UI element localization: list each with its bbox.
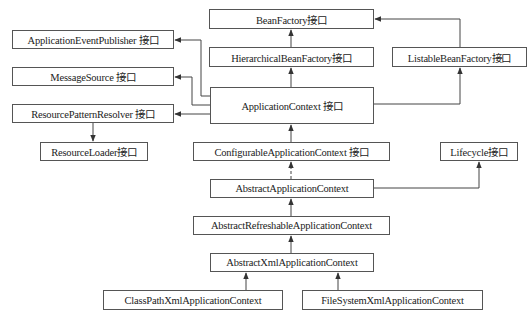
hierarchical-bean-factory-node: HierarchicalBeanFactory接口 bbox=[209, 47, 374, 67]
listable-bean-factory-node: ListableBeanFactory接口 bbox=[392, 47, 527, 67]
class-path-xml-application-context-node: ClassPathXmlApplicationContext bbox=[103, 290, 283, 310]
abstract-application-context-node: AbstractApplicationContext bbox=[210, 179, 374, 198]
resource-pattern-resolver-node: ResourcePatternResolver 接口 bbox=[12, 104, 174, 123]
file-system-xml-application-context-node: FileSystemXmlApplicationContext bbox=[302, 290, 483, 310]
edge-listable-bean-factory-to-bean-factory bbox=[375, 19, 460, 47]
resource-loader-node: ResourceLoader接口 bbox=[40, 142, 148, 161]
lifecycle-node: Lifecycle接口 bbox=[440, 142, 518, 161]
edge-application-context-to-listable-bean-factory bbox=[374, 68, 460, 104]
abstract-xml-application-context-node: AbstractXmlApplicationContext bbox=[210, 253, 374, 272]
edge-application-context-to-message-source bbox=[175, 77, 210, 105]
edge-abstract-application-context-to-lifecycle bbox=[374, 162, 479, 188]
application-event-publisher-node: ApplicationEventPublisher 接口 bbox=[12, 30, 174, 49]
abstract-refreshable-application-context-node: AbstractRefreshableApplicationContext bbox=[193, 216, 390, 235]
configurable-application-context-node: ConfigurableApplicationContext 接口 bbox=[193, 142, 390, 161]
application-context-node: ApplicationContext 接口 bbox=[210, 87, 374, 124]
bean-factory-node: BeanFactory接口 bbox=[209, 9, 374, 29]
class-hierarchy-diagram: BeanFactory接口ApplicationEventPublisher 接… bbox=[0, 0, 530, 319]
message-source-node: MessageSource 接口 bbox=[12, 67, 174, 86]
